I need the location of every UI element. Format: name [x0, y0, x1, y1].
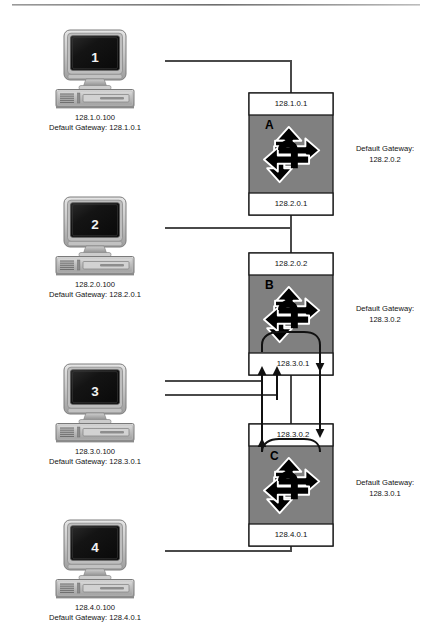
router-b-gateway-label: Default Gateway:	[356, 304, 414, 315]
router-c-top-interface: 128.3.0.2	[277, 430, 310, 439]
router-c-bottom-interface: 128.4.0.1	[275, 530, 308, 539]
router-a-top-interface: 128.1.0.1	[275, 99, 308, 108]
host-4-number: 4	[91, 540, 99, 555]
host-2-icon	[56, 197, 134, 275]
host-4-ip: 128.4.0.100	[49, 603, 141, 613]
router-a-gateway-caption: Default Gateway: 128.2.0.2	[356, 144, 414, 165]
link-host1-routerA	[165, 61, 291, 93]
router-b-top-interface: 128.2.0.2	[275, 259, 308, 268]
router-c-letter: C	[270, 449, 279, 463]
top-divider-rule	[12, 4, 420, 6]
router-c-gateway-label: Default Gateway:	[356, 478, 414, 489]
host-1-ip: 128.1.0.100	[49, 113, 141, 123]
host-1-icon	[56, 30, 134, 108]
host-3-caption: 128.3.0.100 Default Gateway: 128.3.0.1	[49, 447, 141, 467]
host-1-number: 1	[91, 50, 99, 65]
host-3-number: 3	[91, 384, 99, 399]
host-1-caption: 128.1.0.100 Default Gateway: 128.1.0.1	[49, 113, 141, 133]
router-a-letter: A	[265, 118, 274, 132]
host-4-caption: 128.4.0.100 Default Gateway: 128.4.0.1	[49, 603, 141, 623]
router-a-box	[249, 93, 333, 215]
network-diagram-canvas: 1 2 3 4 128.1.0.100 Default Gateway: 128…	[0, 0, 432, 636]
router-a-gateway-value: 128.2.0.2	[356, 155, 414, 166]
router-a-bottom-interface: 128.2.0.1	[275, 199, 308, 208]
host-4-icon	[56, 520, 134, 598]
router-b-bottom-interface: 128.3.0.1	[277, 359, 310, 368]
host-4-gateway: Default Gateway: 128.4.0.1	[49, 613, 141, 623]
router-c-gateway-value: 128.3.0.1	[356, 489, 414, 500]
host-2-caption: 128.2.0.100 Default Gateway: 128.2.0.1	[49, 280, 141, 300]
host-3-icon	[56, 364, 134, 442]
host-2-ip: 128.2.0.100	[49, 280, 141, 290]
router-b-gateway-caption: Default Gateway: 128.3.0.2	[356, 304, 414, 325]
host-1-gateway: Default Gateway: 128.1.0.1	[49, 123, 141, 133]
host-3-ip: 128.3.0.100	[49, 447, 141, 457]
host-2-gateway: Default Gateway: 128.2.0.1	[49, 290, 141, 300]
router-c-gateway-caption: Default Gateway: 128.3.0.1	[356, 478, 414, 499]
host-3-gateway: Default Gateway: 128.3.0.1	[49, 457, 141, 467]
router-b-gateway-value: 128.3.0.2	[356, 315, 414, 326]
host-2-number: 2	[91, 217, 99, 232]
router-b-letter: B	[265, 278, 274, 292]
link-host4-routerC	[165, 546, 291, 551]
router-a-gateway-label: Default Gateway:	[356, 144, 414, 155]
